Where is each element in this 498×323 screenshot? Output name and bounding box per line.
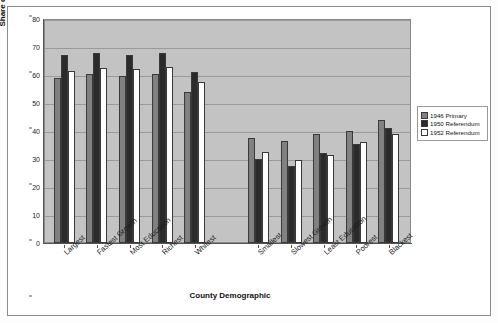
y-axis-tick-mark: [29, 128, 32, 129]
x-axis-title: County Demographic: [150, 291, 310, 300]
x-axis: [43, 243, 412, 244]
bar-group: [86, 19, 107, 243]
bar: [288, 166, 295, 243]
bar: [378, 120, 385, 243]
y-axis-tick-label: 60: [32, 72, 40, 79]
bar: [327, 155, 334, 243]
y-axis-tick-mark: [29, 296, 32, 297]
y-axis-tick-label: 20: [32, 184, 40, 191]
bar: [191, 72, 198, 243]
bar: [61, 55, 68, 243]
y-axis-tick-label: 40: [32, 128, 40, 135]
bar: [152, 74, 159, 243]
y-axis-tick-label: 0: [36, 240, 40, 247]
legend-label: 1950 Referendum: [430, 120, 480, 127]
legend-item[interactable]: 1952 Referendum: [421, 129, 484, 136]
y-axis-tick-label: 10: [32, 212, 40, 219]
bar: [100, 68, 107, 243]
legend-label: 1946 Primary: [430, 112, 467, 119]
bar-group: [184, 19, 205, 243]
bar: [281, 141, 288, 243]
bar: [184, 92, 191, 243]
y-axis-tick-label: 80: [32, 16, 40, 23]
bar: [86, 74, 93, 243]
bar: [68, 71, 75, 243]
y-axis-tick-label: 30: [32, 156, 40, 163]
bar-group: [119, 19, 140, 243]
chart-legend: 1946 Primary1950 Referendum1952 Referend…: [417, 106, 488, 141]
legend-swatch-icon: [421, 120, 428, 127]
bar: [54, 78, 61, 243]
bars-layer: [44, 19, 411, 243]
bar: [93, 53, 100, 243]
bar-group: [378, 19, 399, 243]
legend-swatch-icon: [421, 129, 428, 136]
bar: [119, 76, 126, 243]
bar: [360, 142, 367, 243]
bar-group: [152, 19, 173, 243]
y-axis-title: Share of Loyalist vote: [0, 0, 7, 60]
bar-group: [54, 19, 75, 243]
legend-label: 1952 Referendum: [430, 129, 480, 136]
bar: [262, 152, 269, 243]
y-axis-tick-mark: [29, 240, 32, 241]
bar-group: [248, 19, 269, 243]
bar: [392, 134, 399, 243]
y-axis-tick-label: 50: [32, 100, 40, 107]
chart-container: 01020304050607080 Share of Loyalist vote…: [0, 0, 498, 323]
bar-group: [281, 19, 302, 243]
bar: [248, 138, 255, 243]
bar: [159, 53, 166, 243]
legend-item[interactable]: 1950 Referendum: [421, 120, 484, 127]
bar: [385, 128, 392, 243]
bar-group: [313, 19, 334, 243]
legend-swatch-icon: [421, 112, 428, 119]
bar: [255, 159, 262, 243]
y-axis-tick-label: 70: [32, 44, 40, 51]
bar-group: [346, 19, 367, 243]
y-axis-tick-mark: [29, 184, 32, 185]
bar: [198, 82, 205, 243]
y-axis-tick-mark: [29, 72, 32, 73]
legend-item[interactable]: 1946 Primary: [421, 112, 484, 119]
y-axis-tick-mark: [29, 16, 32, 17]
bar: [295, 160, 302, 243]
